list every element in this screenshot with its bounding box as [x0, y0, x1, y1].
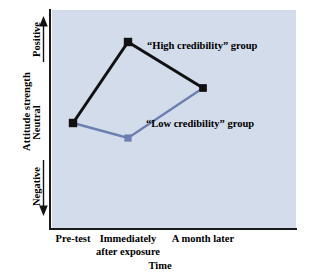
x-tick-label-month-later: A month later [155, 233, 251, 246]
y-tick-label-positive: Positive [31, 0, 42, 80]
series-annotation-high-credibility: “High credibility” group [147, 40, 257, 51]
x-axis-title: Time [80, 260, 240, 271]
series-annotation-low-credibility: “Low credibility” group [146, 118, 254, 129]
y-axis-line [49, 9, 51, 230]
x-axis-line [49, 228, 297, 230]
y-tick-label-negative: Negative [31, 147, 42, 227]
x-tick-label-immediately-line2: after exposure [83, 246, 173, 259]
x-tick-label-month-later-line1: A month later [155, 233, 251, 246]
chart-figure: Attitude strength Positive Neutral Negat… [0, 0, 311, 278]
